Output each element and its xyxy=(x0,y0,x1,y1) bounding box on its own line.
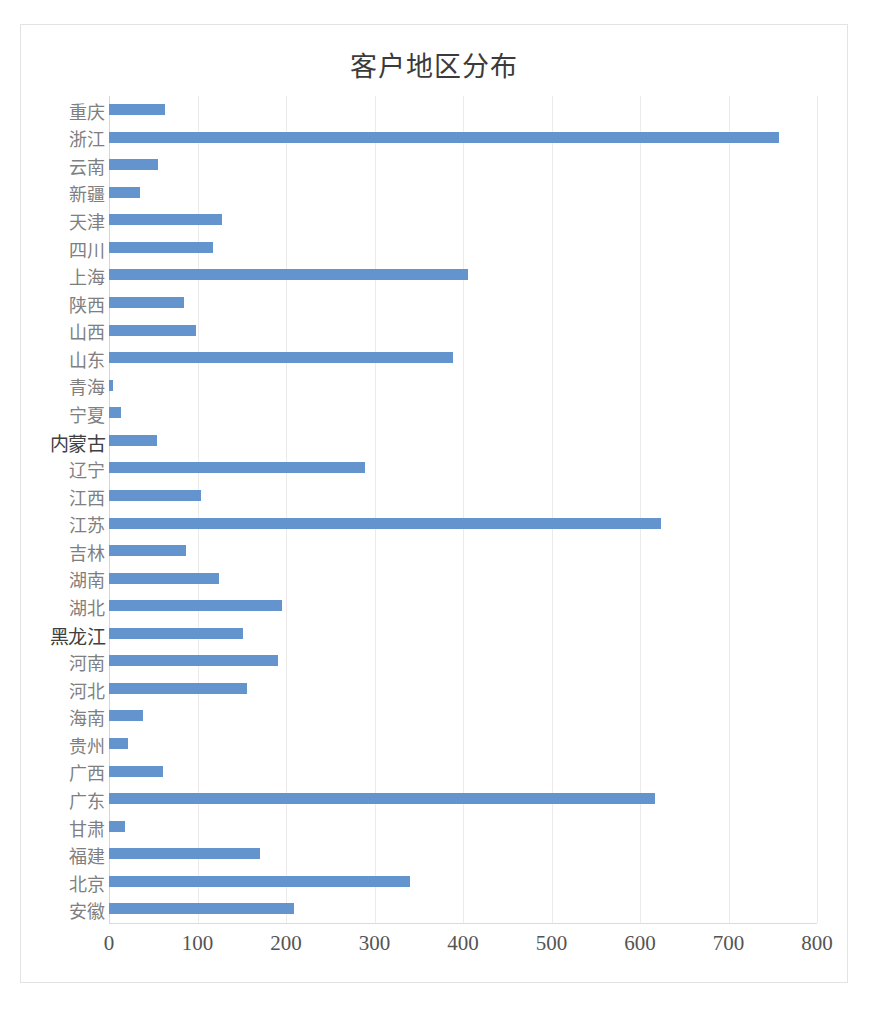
y-tick-label: 宁夏 xyxy=(21,401,105,427)
bar-row[interactable] xyxy=(109,510,817,538)
y-tick-label: 黑龙江 xyxy=(21,622,105,649)
bar-row[interactable] xyxy=(109,620,817,648)
bar[interactable] xyxy=(109,710,143,721)
bar[interactable] xyxy=(109,325,196,336)
y-tick-label: 贵州 xyxy=(21,732,105,758)
bar[interactable] xyxy=(109,214,222,225)
bar-row[interactable] xyxy=(109,206,817,234)
y-tick-label: 山西 xyxy=(21,318,105,344)
y-tick-label: 江苏 xyxy=(21,511,105,537)
x-tick-label: 700 xyxy=(713,931,745,956)
y-tick-label: 重庆 xyxy=(21,98,105,124)
x-tick-label: 500 xyxy=(536,931,568,956)
x-tick-label: 800 xyxy=(801,931,833,956)
bar[interactable] xyxy=(109,573,219,584)
bar[interactable] xyxy=(109,683,247,694)
y-tick-label: 甘肃 xyxy=(21,815,105,841)
y-axis-category-labels: 重庆浙江云南新疆天津四川上海陕西山西山东青海宁夏内蒙古辽宁江西江苏吉林湖南湖北黑… xyxy=(21,96,105,923)
bar[interactable] xyxy=(109,545,186,556)
bar[interactable] xyxy=(109,848,260,859)
y-tick-label: 天津 xyxy=(21,208,105,234)
chart-title: 客户地区分布 xyxy=(21,45,847,84)
bar-row[interactable] xyxy=(109,758,817,786)
bar-row[interactable] xyxy=(109,317,817,345)
bar-row[interactable] xyxy=(109,179,817,207)
bar[interactable] xyxy=(109,821,125,832)
bar[interactable] xyxy=(109,738,128,749)
y-tick-label: 云南 xyxy=(21,153,105,179)
x-tick-label: 400 xyxy=(447,931,479,956)
bar[interactable] xyxy=(109,600,282,611)
x-tick-label: 200 xyxy=(270,931,302,956)
bar[interactable] xyxy=(109,628,243,639)
x-tick-label: 100 xyxy=(182,931,214,956)
bar-row[interactable] xyxy=(109,399,817,427)
bar-row[interactable] xyxy=(109,592,817,620)
bar[interactable] xyxy=(109,518,661,529)
bar-row[interactable] xyxy=(109,151,817,179)
bar-row[interactable] xyxy=(109,565,817,593)
bar-row[interactable] xyxy=(109,427,817,455)
plot-area xyxy=(109,96,817,923)
x-tick-label: 0 xyxy=(104,931,115,956)
bar-row[interactable] xyxy=(109,261,817,289)
bar[interactable] xyxy=(109,903,294,914)
y-tick-label: 河南 xyxy=(21,649,105,675)
bar[interactable] xyxy=(109,242,213,253)
bar-row[interactable] xyxy=(109,813,817,841)
y-tick-label: 新疆 xyxy=(21,180,105,206)
bar[interactable] xyxy=(109,380,113,391)
bar[interactable] xyxy=(109,462,365,473)
bar[interactable] xyxy=(109,407,121,418)
bar[interactable] xyxy=(109,655,278,666)
y-tick-label: 安徽 xyxy=(21,897,105,923)
bar[interactable] xyxy=(109,352,453,363)
y-tick-label: 江西 xyxy=(21,484,105,510)
y-tick-label: 辽宁 xyxy=(21,456,105,482)
bar-row[interactable] xyxy=(109,537,817,565)
bar-row[interactable] xyxy=(109,372,817,400)
bar-row[interactable] xyxy=(109,124,817,152)
bar[interactable] xyxy=(109,132,779,143)
bar[interactable] xyxy=(109,490,201,501)
bar[interactable] xyxy=(109,269,468,280)
y-tick-label: 北京 xyxy=(21,870,105,896)
x-tick-label: 300 xyxy=(359,931,391,956)
y-tick-label: 内蒙古 xyxy=(21,429,105,456)
chart-frame: 客户地区分布 重庆浙江云南新疆天津四川上海陕西山西山东青海宁夏内蒙古辽宁江西江苏… xyxy=(20,24,848,983)
bar-row[interactable] xyxy=(109,454,817,482)
bar[interactable] xyxy=(109,435,157,446)
bar[interactable] xyxy=(109,187,140,198)
bar-row[interactable] xyxy=(109,895,817,923)
bar-row[interactable] xyxy=(109,344,817,372)
y-tick-label: 湖南 xyxy=(21,566,105,592)
bar-row[interactable] xyxy=(109,647,817,675)
y-tick-label: 广西 xyxy=(21,759,105,785)
bar-row[interactable] xyxy=(109,840,817,868)
y-tick-label: 青海 xyxy=(21,373,105,399)
y-tick-label: 四川 xyxy=(21,236,105,262)
bar-row[interactable] xyxy=(109,868,817,896)
bar-row[interactable] xyxy=(109,482,817,510)
bar-row[interactable] xyxy=(109,289,817,317)
bar-row[interactable] xyxy=(109,785,817,813)
x-tick-label: 600 xyxy=(624,931,656,956)
bar[interactable] xyxy=(109,793,655,804)
bar[interactable] xyxy=(109,766,163,777)
x-axis-tick-labels: 0100200300400500600700800 xyxy=(109,931,817,965)
bar-row[interactable] xyxy=(109,702,817,730)
bar[interactable] xyxy=(109,297,184,308)
bar[interactable] xyxy=(109,876,410,887)
bar[interactable] xyxy=(109,159,158,170)
bar-row[interactable] xyxy=(109,675,817,703)
bar[interactable] xyxy=(109,104,165,115)
gridline-800 xyxy=(817,96,818,923)
bar-row[interactable] xyxy=(109,96,817,124)
y-tick-label: 河北 xyxy=(21,677,105,703)
bar-row[interactable] xyxy=(109,730,817,758)
y-tick-label: 上海 xyxy=(21,263,105,289)
y-tick-label: 广东 xyxy=(21,787,105,813)
bar-row[interactable] xyxy=(109,234,817,262)
y-tick-label: 福建 xyxy=(21,842,105,868)
x-axis-line xyxy=(109,923,817,924)
